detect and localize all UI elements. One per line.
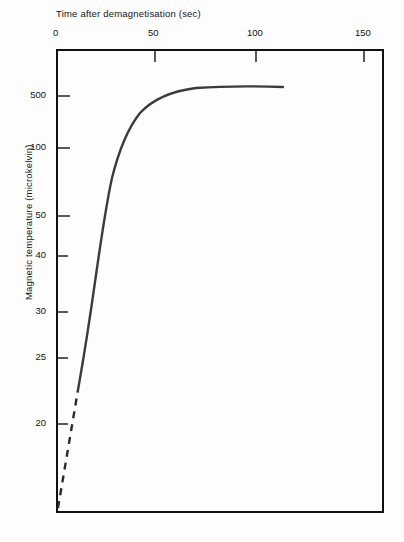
y-axis-ticks bbox=[57, 96, 70, 424]
x-axis-ticks bbox=[155, 50, 364, 62]
data-series-extrapolated bbox=[58, 390, 78, 508]
plot-area bbox=[0, 0, 404, 542]
axis-frame bbox=[57, 50, 383, 512]
chart-figure: Time after demagnetisation (sec) Magneti… bbox=[0, 0, 404, 542]
data-series-measured bbox=[78, 86, 283, 390]
